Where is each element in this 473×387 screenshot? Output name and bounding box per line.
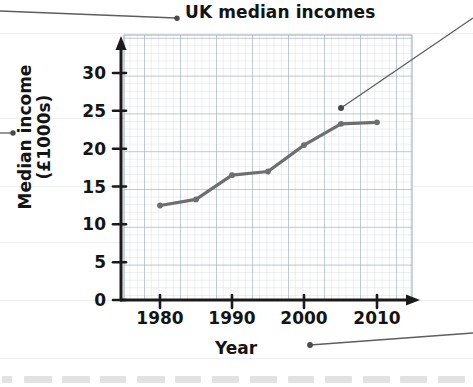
y-tick-label-20: 20 [66, 139, 106, 159]
data-point [338, 121, 344, 127]
y-tick-label-5: 5 [66, 252, 106, 272]
data-point [301, 142, 307, 148]
x-tick-label-2000: 2000 [272, 308, 336, 328]
callout-dot [307, 342, 313, 348]
y-tick-label-15: 15 [66, 177, 106, 197]
x-tick-label-2010: 2010 [345, 308, 409, 328]
chart-canvas: UK median incomes Median income (£1000s)… [0, 0, 473, 387]
data-point [374, 119, 380, 125]
y-tick-label-10: 10 [66, 214, 106, 234]
x-axis-title: Year [215, 338, 257, 358]
data-point [157, 203, 163, 209]
y-tick-label-0: 0 [66, 290, 106, 310]
data-point [229, 172, 235, 178]
callout-dot [174, 16, 179, 21]
y-tick-label-30: 30 [66, 63, 106, 83]
page-dash-strip [0, 376, 473, 385]
y-axis-title: Median income (£1000s) [16, 30, 54, 245]
x-tick-label-1980: 1980 [128, 308, 192, 328]
y-axis-title-line2: (£1000s) [36, 30, 55, 245]
y-tick-label-25: 25 [66, 101, 106, 121]
chart-title: UK median incomes [185, 2, 375, 22]
callout-dot [338, 105, 344, 111]
data-point [193, 197, 199, 203]
y-axis-title-line1: Median income [16, 30, 35, 245]
x-tick-label-1990: 1990 [200, 308, 264, 328]
data-point [265, 169, 271, 175]
plot-grid [124, 35, 412, 300]
